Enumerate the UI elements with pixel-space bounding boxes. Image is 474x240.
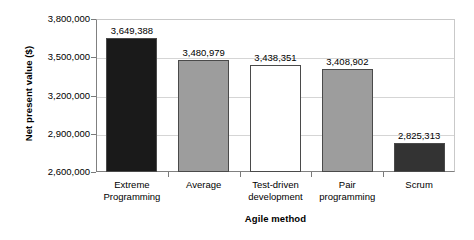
x-axis-tick-mark <box>311 172 312 177</box>
bar <box>394 143 445 172</box>
y-axis-tick-label: 3,800,000 <box>8 14 90 24</box>
y-axis-tick-label: 2,600,000 <box>8 167 90 177</box>
x-axis-tick-mark <box>240 172 241 177</box>
x-axis-tick-mark <box>168 172 169 177</box>
bar-value-label: 2,825,313 <box>372 131 467 141</box>
bar-value-label: 3,649,388 <box>84 26 179 36</box>
bar-slot: 3,438,351 <box>250 19 301 172</box>
bar <box>250 65 301 172</box>
x-axis-tick-mark <box>383 172 384 177</box>
x-axis-category-label: Extreme Programming <box>96 179 168 202</box>
y-axis-tick-label: 2,900,000 <box>8 129 90 139</box>
bar-slot: 3,649,388 <box>106 19 157 172</box>
x-axis-category-labels: Extreme ProgrammingAverageTest-driven de… <box>96 179 455 213</box>
bar-slot: 3,480,979 <box>178 19 229 172</box>
x-axis-title: Agile method <box>96 213 455 224</box>
y-axis-tick-label: 3,200,000 <box>8 91 90 101</box>
x-axis-category-label: Pair programming <box>311 179 383 202</box>
bar <box>106 38 157 172</box>
x-axis-ticks <box>96 172 455 177</box>
bar-slot: 2,825,313 <box>394 19 445 172</box>
npv-bar-chart: Net present value ($) 2,600,0002,900,000… <box>0 0 474 240</box>
x-axis-category-label: Test-driven development <box>240 179 312 202</box>
bar <box>322 69 373 172</box>
bar-slot: 3,408,902 <box>322 19 373 172</box>
bars-layer: 3,649,3883,480,9793,438,3513,408,9022,82… <box>96 19 455 172</box>
bar-value-label: 3,408,902 <box>300 57 395 67</box>
x-axis-category-label: Scrum <box>383 179 455 191</box>
x-axis-category-label: Average <box>168 179 240 191</box>
bar <box>178 60 229 172</box>
y-axis-tick-label: 3,500,000 <box>8 52 90 62</box>
